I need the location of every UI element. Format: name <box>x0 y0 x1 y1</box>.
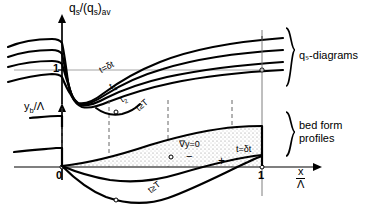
brace-label-profiles: profiles <box>299 133 334 144</box>
upper-y-tick-label-1: 1 <box>53 63 59 74</box>
x-tick-label-1: 1 <box>258 170 264 181</box>
x-over-lambda-fraction: x Λ <box>296 166 305 190</box>
brace-label-bed-form: bed form <box>299 120 342 131</box>
upper-y-axis-label: qs/(qs)av <box>69 2 110 18</box>
trough-marker-deep <box>114 198 118 202</box>
bedform-approach-bed <box>14 148 62 152</box>
qs-curve-t1 <box>8 50 283 104</box>
annotation-minus-sign: − <box>186 151 192 162</box>
qs-slash-paren: /(q <box>80 1 94 15</box>
curve-label-lower-t-delta-t: t=δt <box>236 145 251 154</box>
annotation-plus-sign: + <box>218 155 225 167</box>
figure-sediment-transport-bedform: qs/(qs)av 1 yb/Λ 0 1 x Λ t=δt t1 t2 t≥T … <box>0 0 366 218</box>
lower-marker-upper-curve <box>114 110 118 114</box>
qs-q-glyph: q <box>69 1 76 15</box>
trough-marker-shallow <box>169 155 173 159</box>
brace-bed-form-profiles <box>286 112 295 156</box>
lambda-denominator: Λ <box>296 179 305 191</box>
lower-y-axis-label: yb/Λ <box>24 101 44 115</box>
annotation-gradient-zero: ∇y=0 <box>179 140 200 149</box>
origin-label: 0 <box>56 170 62 181</box>
figure-svg <box>0 0 366 218</box>
brace-label-qs-diagrams: qₛ-diagrams <box>299 50 358 61</box>
brace-qs-diagrams <box>286 28 295 86</box>
x-axis-arrow <box>313 163 322 171</box>
gradient-zero-text: ∇y=0 <box>179 139 200 149</box>
x-axis-label: x Λ <box>296 166 305 190</box>
x-numerator: x <box>296 166 305 179</box>
qs-av-subscript: av <box>102 8 111 17</box>
qs-curve-t-delta-t <box>8 38 283 103</box>
yb-lambda: /Λ <box>34 100 44 112</box>
bedform-initial-level-left-upper <box>30 116 62 118</box>
upper-y-axis-arrow <box>58 14 66 23</box>
